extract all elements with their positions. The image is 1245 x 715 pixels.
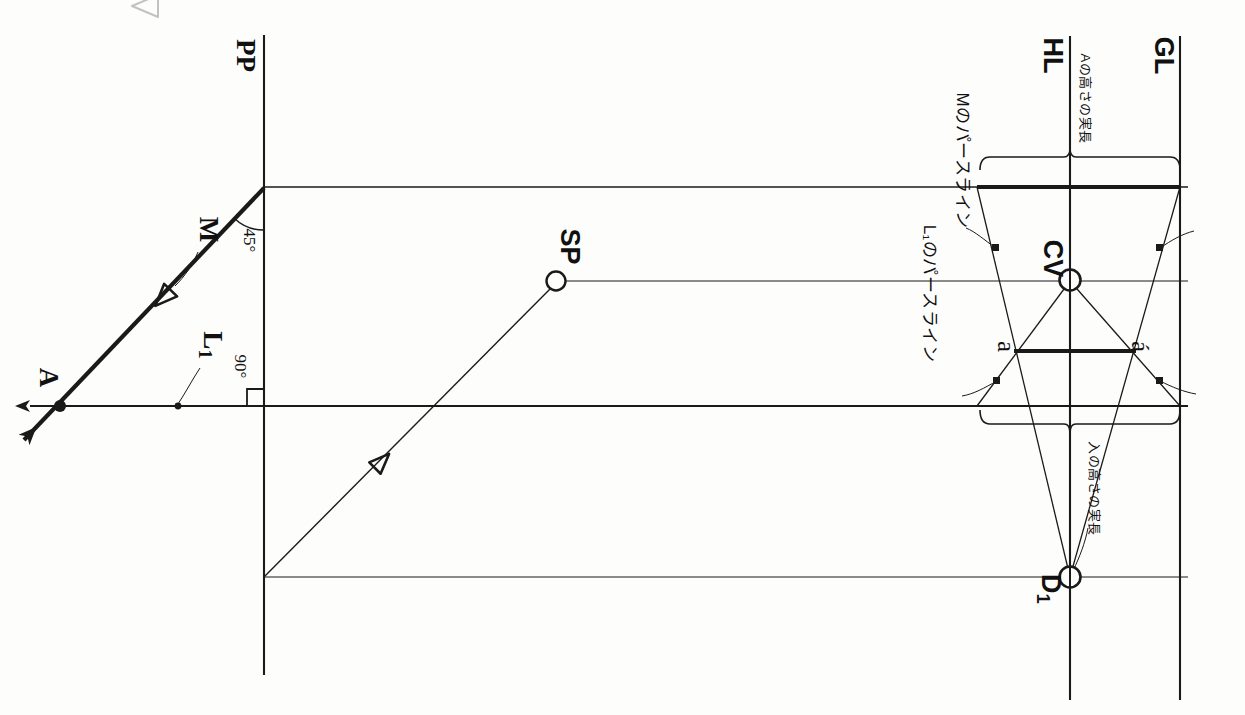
cv-label: CV xyxy=(1039,240,1066,278)
leader-l1-pers-bottom xyxy=(1160,381,1196,394)
angle-45-label: 45° xyxy=(241,229,258,253)
line-l1-base: L xyxy=(198,331,228,349)
leader-l1-label xyxy=(178,368,200,404)
a-foot-prime-label: á xyxy=(1128,341,1153,352)
angle-90-label: 90° xyxy=(232,355,249,379)
point-a-dot xyxy=(54,400,66,412)
angle-90-square xyxy=(247,389,264,406)
height-person-brace xyxy=(980,410,1180,433)
line-l1-label: L1 xyxy=(196,331,226,358)
leader-m-pers-top xyxy=(966,228,996,248)
point-a-label: A xyxy=(35,368,62,388)
d1-sub: 1 xyxy=(1033,594,1054,604)
d1-label: D1 xyxy=(1034,574,1064,604)
a-foot-label: a xyxy=(994,341,1019,352)
line-m-label: M xyxy=(195,217,222,242)
leader-height-person xyxy=(1073,528,1088,571)
cv-ray-left xyxy=(977,281,1070,406)
sp-line-triangle xyxy=(369,448,394,473)
line-l1-sub: 1 xyxy=(195,349,215,358)
height-person-label: 入の高さの実長 xyxy=(1088,441,1101,536)
sp-circle xyxy=(547,272,566,291)
d1-base: D xyxy=(1036,574,1066,594)
m-perspective-line-top-label: Mのパースライン xyxy=(954,92,971,228)
l1-tick-dot xyxy=(175,403,182,410)
l1-pers-dot-lower xyxy=(1156,377,1163,384)
cv-ray-right xyxy=(1070,281,1180,406)
node-markers xyxy=(54,244,1163,588)
l1-pers-dot-upper xyxy=(993,377,1000,384)
corner-decoration-icon xyxy=(132,0,158,17)
m-line-triangle xyxy=(149,284,177,312)
height-a-label: Aの高さの実長 xyxy=(1079,53,1092,143)
leader-l1-pers-top xyxy=(962,381,997,396)
l1-perspective-line-top-label: L₁のパースライン xyxy=(921,225,938,363)
sp-label: SP xyxy=(556,228,583,264)
m-pers-dot-lower xyxy=(1156,244,1163,251)
diagram-canvas: PP HL GL CV SP A M L1 D1 a á 45° 90° Mの… xyxy=(0,0,1245,715)
height-a-brace xyxy=(980,148,1180,170)
sp-diagonal xyxy=(264,283,556,577)
m-pers-dot-upper xyxy=(992,244,999,251)
gl-label: GL xyxy=(1150,37,1177,75)
drawing-surface xyxy=(0,0,1245,715)
hl-label: HL xyxy=(1039,38,1066,74)
pp-label: PP xyxy=(232,39,259,72)
